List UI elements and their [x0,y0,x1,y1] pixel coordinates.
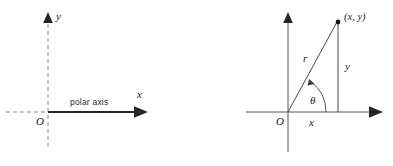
vertical-leg-label: y [344,60,350,72]
diagram-canvas: y x O polar axis (x, y [0,0,393,166]
right-diagram: (x, y) r y θ x O [246,11,383,152]
left-x-axis-label: x [136,88,142,100]
right-x-axis-arrowhead-icon [369,106,383,118]
point-coordinate-label: (x, y) [344,11,366,23]
horizontal-leg-label: x [308,116,314,128]
right-origin-label: O [276,115,284,127]
radius-label: r [303,52,308,64]
left-y-axis-label: y [55,10,61,22]
left-y-axis-arrowhead-icon [43,12,53,23]
left-x-axis-arrowhead-icon [134,106,148,118]
right-y-axis-arrowhead-icon [283,12,293,23]
left-origin-label: O [36,115,44,127]
figure-root: y x O polar axis (x, y [0,0,393,166]
angle-label: θ [310,94,316,106]
polar-axis-annotation-label: polar axis [70,97,108,107]
angle-arc-arrowhead-icon [308,79,315,85]
point-marker-dot-icon [336,20,341,25]
left-diagram: y x O polar axis [6,10,148,147]
